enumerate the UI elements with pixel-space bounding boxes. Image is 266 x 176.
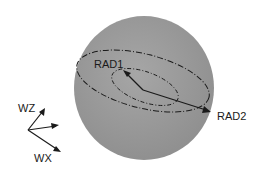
wx-label: WX: [34, 152, 52, 164]
rad2-label: RAD2: [217, 110, 246, 122]
axes-icon: [28, 111, 58, 150]
rad1-label: RAD1: [94, 58, 123, 70]
y-arrowhead-icon: [51, 123, 59, 129]
wz-label: WZ: [18, 102, 35, 114]
diagram-canvas: RAD1 RAD2 WZ WX: [0, 0, 266, 176]
sphere-diagram: RAD1 RAD2 WZ WX: [0, 0, 266, 176]
sphere: [74, 16, 214, 160]
